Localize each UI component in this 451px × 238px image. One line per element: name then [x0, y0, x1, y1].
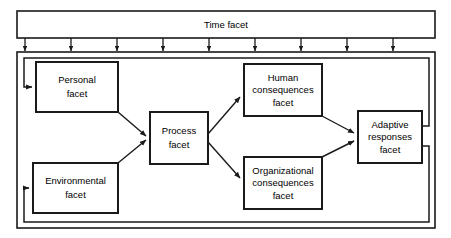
environmental-facet-label-line1: Environmental: [45, 175, 106, 186]
arrow-organizational-consequences-to-adaptive: [322, 141, 354, 157]
arrow-process-to-organizational-consequences: [208, 142, 240, 178]
facet-model-diagram: Time facet: [0, 0, 451, 238]
diagram-root: Time facet: [0, 0, 451, 238]
box-environmental-facet: Environmental facet: [33, 163, 118, 213]
process-facet-label-line2: facet: [169, 139, 190, 150]
human-consequences-facet-label-line3: facet: [273, 97, 294, 108]
process-facet-label-line1: Process: [162, 125, 197, 136]
organizational-consequences-facet-label-line2: consequences: [252, 177, 314, 188]
arrow-human-consequences-to-adaptive: [322, 116, 354, 133]
box-organizational-consequences-facet: Organizational consequences facet: [244, 157, 322, 209]
environmental-facet-label-line2: facet: [65, 189, 86, 200]
time-tick-arrows: [25, 38, 393, 51]
organizational-consequences-facet-label-line1: Organizational: [252, 165, 313, 176]
human-consequences-facet-label-line1: Human: [268, 72, 299, 83]
adaptive-responses-facet-label-line1: Adaptive: [372, 119, 409, 130]
arrow-environmental-to-process: [118, 140, 146, 163]
organizational-consequences-facet-label-line3: facet: [273, 190, 294, 201]
personal-facet-label-line2: facet: [67, 88, 88, 99]
time-facet-label: Time facet: [204, 19, 248, 30]
box-adaptive-responses-facet: Adaptive responses facet: [358, 111, 422, 163]
adaptive-responses-facet-label-line3: facet: [380, 144, 401, 155]
arrow-process-to-human-consequences: [208, 97, 240, 134]
personal-facet-label-line1: Personal: [58, 74, 96, 85]
box-process-facet: Process facet: [150, 112, 208, 164]
arrow-personal-to-process: [118, 112, 146, 136]
box-human-consequences-facet: Human consequences facet: [244, 64, 322, 116]
adaptive-responses-facet-label-line2: responses: [368, 131, 412, 142]
box-personal-facet: Personal facet: [36, 62, 118, 112]
human-consequences-facet-label-line2: consequences: [252, 84, 314, 95]
time-facet-band: Time facet: [17, 11, 435, 38]
